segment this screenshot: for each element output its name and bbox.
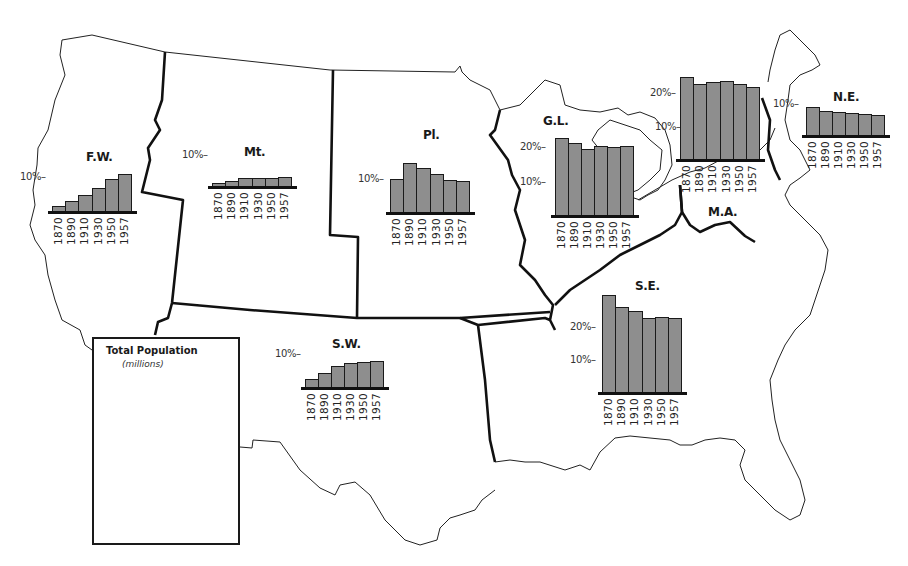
bar-ne-1890: [819, 111, 833, 136]
region-label-ne: N.E.: [833, 90, 859, 104]
boundary-fw-mt: [142, 52, 183, 335]
axis-tick-gl: 20%–: [520, 141, 546, 152]
baseline-mt: [208, 186, 297, 189]
region-label-sw: S.W.: [332, 337, 361, 351]
year-label: 1930: [345, 393, 356, 421]
total-population-title: Total Population: [106, 345, 198, 356]
year-label: 1890: [694, 165, 705, 193]
baseline-ne: [802, 135, 890, 138]
axis-tick-mt: 10%–: [182, 149, 208, 160]
bar-fw-1910: [78, 195, 92, 212]
year-label: 1950: [106, 217, 117, 245]
year-label: 1957: [457, 218, 468, 246]
boundary-ma-ne: [762, 98, 780, 180]
west-coastline: [30, 35, 92, 350]
bar-ma-1950: [733, 84, 747, 160]
year-label: 1957: [279, 192, 290, 220]
bar-fw-1930: [92, 188, 106, 212]
bar-gl-1957: [620, 146, 634, 216]
axis-tick-se: 20%–: [570, 321, 596, 332]
year-label: 1950: [656, 398, 667, 426]
year-label: 1957: [872, 141, 883, 169]
year-label: 1870: [681, 165, 692, 193]
baseline-sw: [301, 387, 389, 390]
bar-ma-1890: [693, 84, 707, 160]
year-label: 1870: [213, 192, 224, 220]
bar-sw-1950: [357, 362, 371, 388]
year-label: 1890: [616, 398, 627, 426]
bar-se-1870: [602, 295, 616, 393]
bar-gl-1890: [568, 143, 582, 216]
year-label: 1957: [371, 393, 382, 421]
boundary-pl-se: [460, 318, 550, 325]
year-label: 1910: [239, 192, 250, 220]
bar-se-1930: [642, 318, 656, 393]
region-label-mt: Mt.: [244, 145, 265, 159]
baseline-se: [598, 392, 687, 395]
year-label: 1910: [79, 217, 90, 245]
bar-ne-1870: [806, 107, 820, 136]
year-label: 1890: [226, 192, 237, 220]
region-label-ma: M.A.: [708, 205, 737, 219]
baseline-fw: [48, 211, 137, 214]
bar-ne-1950: [858, 114, 872, 136]
axis-tick-gl: 10%–: [520, 176, 546, 187]
region-label-gl: G.L.: [543, 114, 568, 128]
bar-ma-1957: [746, 87, 760, 160]
bar-pl-1890: [403, 163, 417, 213]
year-label: 1910: [707, 165, 718, 193]
year-label: 1870: [603, 398, 614, 426]
total-population-inset: Total Population (millions): [92, 337, 240, 545]
year-label: 1890: [404, 218, 415, 246]
bar-fw-1957: [118, 174, 132, 212]
year-label: 1870: [807, 141, 818, 169]
region-label-se: S.E.: [635, 279, 660, 293]
year-label: 1950: [608, 221, 619, 249]
bar-pl-1910: [416, 168, 430, 213]
bar-ma-1870: [680, 77, 694, 160]
bar-ma-1930: [720, 81, 734, 160]
bar-sw-1930: [344, 363, 358, 388]
region-label-pl: Pl.: [423, 128, 440, 142]
bar-pl-1930: [430, 174, 444, 213]
year-label: 1950: [358, 393, 369, 421]
bar-sw-1957: [370, 361, 384, 388]
year-label: 1957: [747, 165, 758, 193]
year-label: 1930: [431, 218, 442, 246]
region-label-fw: F.W.: [86, 150, 113, 164]
baseline-pl: [386, 212, 475, 215]
year-label: 1957: [669, 398, 680, 426]
bar-se-1957: [668, 318, 682, 393]
bar-pl-1957: [456, 181, 470, 213]
year-label: 1950: [734, 165, 745, 193]
year-label: 1910: [833, 141, 844, 169]
year-label: 1930: [643, 398, 654, 426]
bar-se-1890: [615, 307, 629, 393]
bar-pl-1950: [443, 180, 457, 213]
bar-se-1950: [655, 317, 669, 393]
atlantic-coastline: [768, 30, 828, 250]
axis-tick-ne: 10%–: [773, 98, 799, 109]
year-label: 1957: [119, 217, 130, 245]
year-label: 1930: [846, 141, 857, 169]
bar-gl-1930: [594, 146, 608, 216]
year-label: 1950: [859, 141, 870, 169]
axis-tick-ma: 10%–: [655, 121, 681, 132]
year-label: 1950: [444, 218, 455, 246]
bar-gl-1910: [581, 149, 595, 216]
axis-tick-ma: 20%–: [650, 87, 676, 98]
bar-fw-1950: [105, 179, 119, 212]
year-label: 1890: [820, 141, 831, 169]
boundary-mt-pl: [330, 70, 358, 318]
year-label: 1870: [306, 393, 317, 421]
year-label: 1930: [595, 221, 606, 249]
total-population-subtitle: (millions): [122, 359, 164, 369]
year-label: 1870: [391, 218, 402, 246]
year-label: 1910: [332, 393, 343, 421]
northern-border: [92, 35, 500, 110]
boundary-sw-se: [478, 325, 495, 462]
bar-pl-1870: [390, 179, 404, 213]
bar-sw-1910: [331, 366, 345, 388]
year-label: 1870: [556, 221, 567, 249]
bar-ne-1930: [845, 113, 859, 136]
